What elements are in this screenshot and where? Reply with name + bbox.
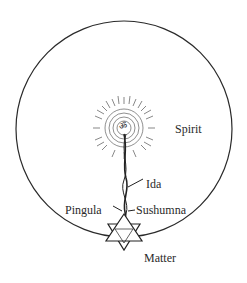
- diagram-canvas: [0, 0, 247, 283]
- matter-label: Matter: [144, 252, 176, 264]
- center-symbol: ॐ: [119, 122, 127, 131]
- star-of-matter: [106, 214, 142, 250]
- ida-pointer: [128, 179, 143, 187]
- ida-label: Ida: [146, 178, 161, 190]
- spirit-label: Spirit: [175, 123, 202, 135]
- sushumna-arrow: [128, 210, 135, 211]
- pingula-arrow: [113, 206, 122, 211]
- sushumna-label: Sushumna: [136, 204, 186, 216]
- pingula-label: Pingula: [65, 204, 102, 216]
